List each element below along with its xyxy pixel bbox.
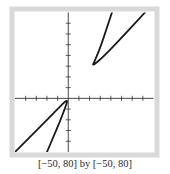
graphing-calculator-window: [0, 0, 170, 174]
graph-figure: [−50, 80] by [−50, 80]: [0, 0, 170, 174]
viewing-window-caption: [−50, 80] by [−50, 80]: [0, 157, 170, 171]
